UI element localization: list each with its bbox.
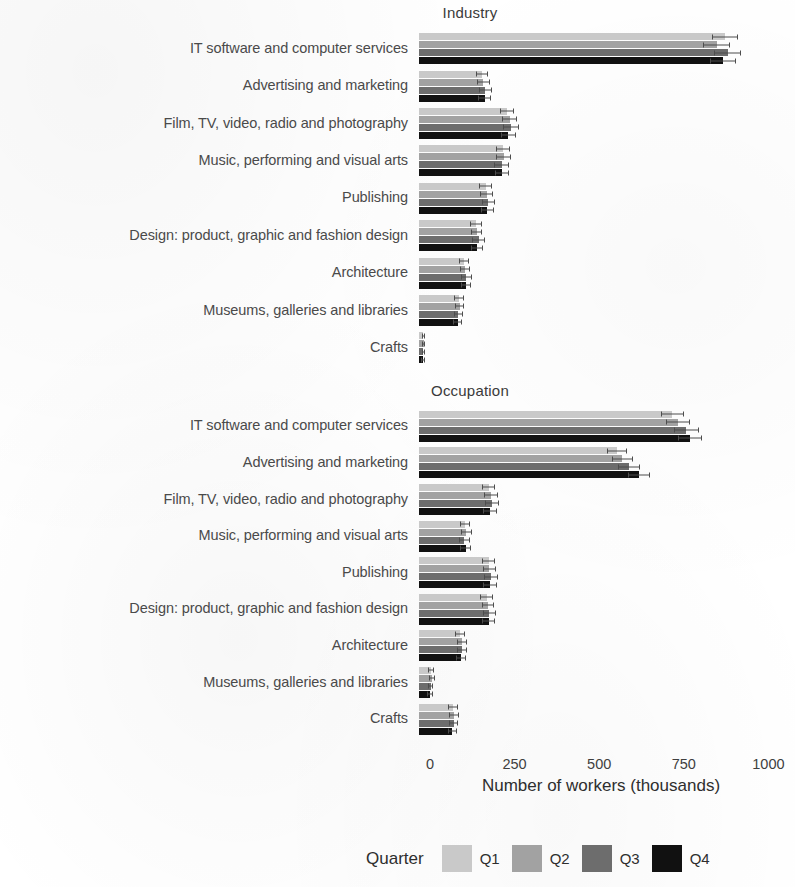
legend-swatch-q2 [512, 845, 542, 872]
error-bar [477, 82, 490, 83]
bar-group [419, 30, 795, 67]
error-bar [460, 548, 471, 549]
error-bar [480, 194, 493, 195]
category-label: Music, performing and visual arts [0, 528, 419, 544]
error-bar [449, 715, 458, 716]
error-bar [661, 414, 684, 415]
bar-q4 [419, 654, 795, 661]
bar-rect [419, 153, 504, 160]
bar-q1 [419, 183, 795, 190]
bar-q4 [419, 435, 795, 442]
bar-q4 [419, 508, 795, 515]
bar-rect [419, 274, 466, 281]
bar-rect [419, 447, 617, 454]
error-bar [482, 487, 496, 488]
category-row: Advertising and marketing [0, 67, 795, 104]
plot-area-industry: IT software and computer servicesAdverti… [0, 30, 795, 368]
bar-q2 [419, 191, 795, 198]
bar-group [419, 105, 795, 142]
bar-q4 [419, 691, 795, 698]
error-bar [478, 98, 491, 99]
bar-q3 [419, 348, 795, 355]
legend-item-q4: Q4 [652, 845, 710, 872]
error-bar [482, 605, 495, 606]
category-row: Design: product, graphic and fashion des… [0, 217, 795, 254]
bar-q3 [419, 463, 795, 470]
bar-q4 [419, 471, 795, 478]
bar-rect [419, 183, 486, 190]
bar-q1 [419, 484, 795, 491]
category-row: Museums, galleries and libraries [0, 292, 795, 329]
category-row: Film, TV, video, radio and photography [0, 481, 795, 518]
category-row: Crafts [0, 329, 795, 366]
bar-rect [419, 108, 507, 115]
bar-q1 [419, 630, 795, 637]
bar-group [419, 217, 795, 254]
bar-q3 [419, 610, 795, 617]
bar-q3 [419, 236, 795, 243]
category-row: Architecture [0, 254, 795, 291]
bar-group [419, 408, 795, 445]
error-bar [459, 540, 470, 541]
error-bar [459, 261, 469, 262]
bar-rect [419, 411, 672, 418]
bar-rect [419, 116, 510, 123]
category-row: Publishing [0, 554, 795, 591]
bar-q2 [419, 41, 795, 48]
category-row: IT software and computer services [0, 30, 795, 67]
bar-q1 [419, 332, 795, 339]
error-bar [503, 127, 519, 128]
bar-rect [419, 258, 464, 265]
bar-rect [419, 492, 491, 499]
category-label: Crafts [0, 340, 419, 356]
bar-rect [419, 124, 511, 131]
bar-q4 [419, 57, 795, 64]
bar-group [419, 554, 795, 591]
legend-swatch-q3 [582, 845, 612, 872]
bar-q4 [419, 545, 795, 552]
error-bar [482, 560, 496, 561]
category-label: Museums, galleries and libraries [0, 303, 419, 319]
bar-q4 [419, 618, 795, 625]
bar-rect [419, 435, 690, 442]
category-row: Publishing [0, 180, 795, 217]
category-label: Design: product, graphic and fashion des… [0, 228, 419, 244]
x-axis-title: Number of workers (thousands) [413, 776, 789, 796]
bar-rect [419, 161, 502, 168]
bar-rect [419, 244, 477, 251]
bar-rect [419, 145, 503, 152]
bar-rect [419, 266, 465, 273]
bar-q4 [419, 728, 795, 735]
category-label: Crafts [0, 711, 419, 727]
bar-rect [419, 463, 629, 470]
error-bar [482, 621, 495, 622]
error-bar [484, 576, 498, 577]
plot-area-occupation: IT software and computer servicesAdverti… [0, 408, 795, 738]
error-bar [714, 52, 742, 53]
bar-rect [419, 500, 492, 507]
bar-q3 [419, 49, 795, 56]
bar-q1 [419, 594, 795, 601]
panel-title-industry: Industry [0, 4, 795, 21]
bar-rect [419, 49, 728, 56]
bar-q2 [419, 419, 795, 426]
error-bar [461, 532, 472, 533]
error-bar [703, 44, 730, 45]
legend-label-q4: Q4 [690, 850, 710, 867]
bar-rect [419, 529, 466, 536]
category-row: Crafts [0, 701, 795, 738]
x-tick-750: 750 [672, 756, 696, 772]
bar-rect [419, 169, 502, 176]
error-bar [494, 164, 508, 165]
error-bar [618, 466, 640, 467]
bar-q1 [419, 145, 795, 152]
bar-group [419, 664, 795, 701]
bar-q4 [419, 95, 795, 102]
bar-q3 [419, 646, 795, 653]
panel-occupation: Occupation IT software and computer serv… [0, 380, 795, 752]
bar-rect [419, 602, 488, 609]
bar-q3 [419, 311, 795, 318]
category-label: Advertising and marketing [0, 78, 419, 94]
category-label: Design: product, graphic and fashion des… [0, 601, 419, 617]
bar-chart: Industry IT software and computer servic… [0, 0, 795, 887]
